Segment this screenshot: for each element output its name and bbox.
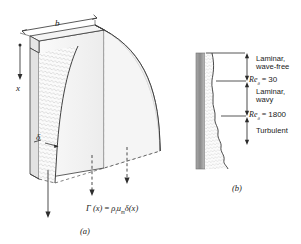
- transition-re-1800-value: 1800: [268, 110, 286, 119]
- film-region-stipple: [205, 53, 228, 169]
- label-film-thickness-delta: δ: [36, 133, 40, 142]
- regime-turbulent: Turbulent: [256, 127, 288, 135]
- control-volume-face: [104, 30, 160, 168]
- regime-laminar-wave-free-line2: wave-free: [256, 63, 289, 71]
- wall-strip: [196, 53, 205, 169]
- transition-re-30-value: 30: [268, 75, 277, 84]
- regime-extent-arrows: [245, 53, 249, 145]
- plate-side-face: [30, 48, 39, 179]
- transition-re-1800: Reδ=1800: [249, 111, 286, 121]
- equation-equals: =: [102, 203, 111, 213]
- equation-mass-flow-rate: Γ (x)=ρlumδ(x): [86, 204, 138, 215]
- transition-re-1800-equals: =: [260, 110, 269, 119]
- equation-lhs: Γ (x): [86, 203, 102, 213]
- panel-a-isometric-block: [18, 15, 160, 218]
- regime-laminar-wavy: Laminar, wavy: [256, 88, 285, 104]
- caption-panel-a: (a): [80, 227, 90, 236]
- caption-panel-b: (b): [232, 184, 242, 193]
- axis-arrow-x: [18, 44, 23, 81]
- figure-drawing: [0, 0, 301, 244]
- equation-arg: (x): [129, 203, 138, 213]
- label-axis-x: x: [16, 84, 20, 93]
- transition-re-30-equals: =: [260, 75, 269, 84]
- transition-re-30: Reδ=30: [249, 76, 277, 86]
- regime-laminar-wavy-line2: wavy: [256, 96, 285, 104]
- label-width-b: b: [55, 19, 60, 28]
- figure-falling-film-condensation: b x δ Γ (x)=ρlumδ(x) (a) Laminar, wave-f…: [0, 0, 301, 244]
- regime-laminar-wave-free: Laminar, wave-free: [256, 55, 289, 71]
- panel-b-side-view: [196, 53, 249, 169]
